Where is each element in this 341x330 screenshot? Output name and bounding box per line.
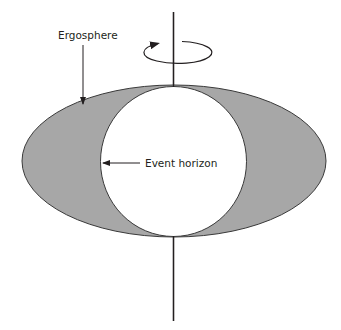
ergosphere-label: Ergosphere [58, 29, 118, 41]
ergosphere-diagram: Ergosphere Event horizon [0, 0, 341, 330]
event-horizon-label: Event horizon [145, 157, 217, 169]
rotation-arrow-icon [144, 42, 212, 64]
